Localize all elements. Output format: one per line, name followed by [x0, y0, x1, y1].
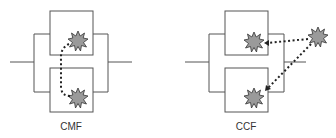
component-box-top — [225, 11, 268, 55]
ccf-diagram — [185, 11, 328, 112]
ccf-label: CCF — [226, 121, 266, 132]
failure-diagrams — [0, 0, 336, 138]
component-box-bottom — [225, 68, 268, 112]
cmf-diagram — [10, 11, 132, 112]
cmf-label: CMF — [51, 121, 91, 132]
